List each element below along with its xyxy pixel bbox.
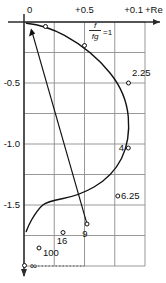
radius-vector-arrowhead-icon <box>29 29 35 37</box>
data-point-marker-infinity <box>23 264 27 268</box>
data-point-marker-6p25 <box>116 194 120 198</box>
annotation-equals-one: =1 <box>103 28 113 37</box>
locus-curve <box>26 23 128 231</box>
data-label-infinity: ∞ <box>30 260 37 271</box>
y-tick-label-1: -1.0 <box>4 138 20 149</box>
radius-vector-line <box>32 30 88 224</box>
nyquist-plot-canvas: 0 +0.5 +0.1 +Re -0.5 -1.0 -1.5 f fg =1 <box>0 0 166 283</box>
axis-tick-labels: 0 +0.5 +0.1 +Re -0.5 -1.0 -1.5 <box>4 4 163 210</box>
annotation-denominator: fg <box>92 32 99 41</box>
y-tick-label-2: -1.5 <box>4 199 20 210</box>
data-point-marker-16 <box>61 231 65 235</box>
data-label-6p25: 6.25 <box>121 190 140 201</box>
y-tick-label-0: -0.5 <box>4 77 20 88</box>
data-point-marker <box>44 25 48 29</box>
radius-vector <box>29 29 87 225</box>
data-label-9: 9 <box>82 228 87 239</box>
imaginary-axis-arrowhead-icon <box>21 269 27 277</box>
locus-curve-path <box>26 23 128 231</box>
nyquist-plot-figure: 0 +0.5 +0.1 +Re -0.5 -1.0 -1.5 f fg =1 <box>0 0 166 283</box>
data-point-marker-4 <box>126 146 130 150</box>
frequency-ratio-annotation: f fg =1 <box>89 21 113 41</box>
data-point-marker <box>83 44 87 48</box>
data-label-100: 100 <box>43 247 59 258</box>
data-point-marker-9 <box>85 222 89 226</box>
data-label-4: 4 <box>119 142 124 153</box>
real-axis-arrowhead-icon <box>153 19 160 25</box>
data-point-labels: 2.25 4 6.25 9 16 100 ∞ <box>30 67 151 271</box>
x-tick-label-2: +0.1 <box>124 4 143 15</box>
data-point-marker-2p25 <box>127 81 131 85</box>
data-label-2p25: 2.25 <box>132 67 151 78</box>
real-axis-label: +Re <box>145 4 163 15</box>
data-point-marker-100 <box>37 246 41 250</box>
x-tick-label-0: 0 <box>27 4 32 15</box>
x-tick-label-1: +0.5 <box>75 4 94 15</box>
data-label-16: 16 <box>57 235 68 246</box>
